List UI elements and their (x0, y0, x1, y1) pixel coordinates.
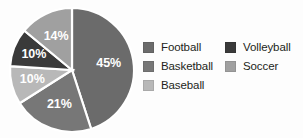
legend-swatch-volleyball (225, 42, 236, 53)
pie-slice-label-basketball: 21% (47, 97, 72, 111)
pie-chart-figure: 45%21%10%10%14% FootballBasketballBaseba… (0, 0, 303, 138)
legend-label-volleyball: Volleyball (243, 41, 291, 54)
legend-item-basketball[interactable]: Basketball (143, 57, 213, 76)
legend-swatch-soccer (225, 61, 236, 72)
pie-slice-label-baseball: 10% (20, 72, 45, 86)
pie-svg: 45%21%10%10%14% (10, 8, 134, 138)
legend-label-soccer: Soccer (243, 60, 278, 73)
legend-label-baseball: Baseball (161, 79, 204, 92)
pie-slice-label-soccer: 14% (44, 29, 69, 43)
legend-item-football[interactable]: Football (143, 38, 213, 57)
chart-title-cropped (0, 0, 303, 7)
pie-graphic: 45%21%10%10%14% (10, 8, 134, 138)
legend-item-volleyball[interactable]: Volleyball (225, 38, 291, 57)
legend-swatch-football (143, 42, 154, 53)
legend-item-soccer[interactable]: Soccer (225, 57, 291, 76)
legend-item-baseball[interactable]: Baseball (143, 76, 213, 95)
legend-label-football: Football (161, 41, 201, 54)
pie-slice-label-volleyball: 10% (21, 47, 46, 61)
legend-column-left: FootballBasketballBaseball (143, 38, 213, 95)
pie-slice-label-football: 45% (96, 56, 121, 70)
legend-column-right: VolleyballSoccer (225, 38, 291, 76)
chart-legend: FootballBasketballBaseball VolleyballSoc… (143, 38, 303, 98)
legend-label-basketball: Basketball (161, 60, 213, 73)
legend-swatch-basketball (143, 61, 154, 72)
legend-swatch-baseball (143, 80, 154, 91)
